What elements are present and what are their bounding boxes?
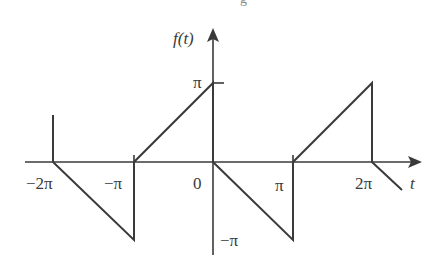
y-tick-label-neg-pi: −π xyxy=(220,232,238,249)
x-axis-label: t xyxy=(410,175,415,192)
x-tick-label-zero: 0 xyxy=(193,175,202,192)
waveform-plot xyxy=(0,0,436,266)
y-axis-label: f(t) xyxy=(173,30,194,47)
x-tick-label-pi: π xyxy=(275,177,284,194)
x-tick-label-neg-pi: −π xyxy=(104,175,122,192)
waveform-diagram: g f(t) t −2π −π 0 π 2π π −π xyxy=(0,0,436,266)
x-tick-label-neg-2pi: −2π xyxy=(26,175,53,192)
x-tick-label-2pi: 2π xyxy=(355,175,372,192)
y-tick-label-pi: π xyxy=(193,74,202,91)
cut-off-caption: g xyxy=(240,0,247,7)
